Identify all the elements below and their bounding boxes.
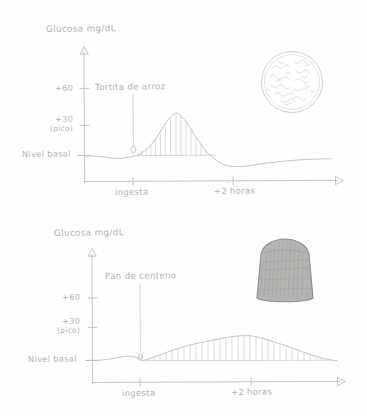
y-axis-line	[92, 254, 93, 384]
rice-cake-inner-rim	[265, 55, 320, 110]
y-axis-title: Glucosa mg/dL	[54, 227, 124, 238]
x-axis-line	[92, 381, 340, 382]
rice-cake-icon	[262, 52, 323, 113]
y-tick-label-60: +60	[62, 293, 80, 303]
annotation-pan-de-centeno: Pan de centeno	[105, 271, 177, 282]
y-tick-label-basal: Nivel basal	[28, 354, 77, 364]
x-tick-label-ingesta: ingesta	[115, 188, 148, 198]
glucose-curve-rice-cake	[85, 113, 331, 167]
bread-slice-body	[257, 239, 313, 302]
ingesta-marker-circle	[131, 146, 136, 153]
y-tick-label-basal: Nivel basal	[22, 149, 71, 159]
y-tick-label-30-sub: (pico)	[50, 125, 73, 134]
x-tick-label-2-horas: +2 horas	[214, 186, 255, 196]
chart-rye-bread-drawing	[0, 208, 367, 416]
bread-slice-icon	[257, 239, 313, 302]
y-axis-line	[84, 52, 85, 183]
rice-cake-outline	[262, 52, 323, 113]
y-tick-label-30-sub: (pico)	[57, 327, 80, 336]
y-tick-label-60: +60	[55, 84, 73, 94]
chart-rice-cake: Glucosa mg/dL +60 +30 (pico) Nivel basal…	[0, 0, 367, 208]
annotation-tortita-de-arroz: Tortita de arroz	[95, 82, 166, 93]
sketch-page: Glucosa mg/dL +60 +30 (pico) Nivel basal…	[0, 0, 367, 416]
chart-rye-bread: Glucosa mg/dL +60 +30 (pico) Nivel basal…	[0, 208, 367, 416]
y-axis-title: Glucosa mg/dL	[46, 23, 116, 34]
x-tick-label-2-horas: +2 horas	[231, 387, 272, 397]
x-axis-line	[84, 180, 338, 181]
glucose-curve-rye-bread	[93, 336, 337, 361]
x-tick-label-ingesta: ingesta	[122, 389, 155, 399]
